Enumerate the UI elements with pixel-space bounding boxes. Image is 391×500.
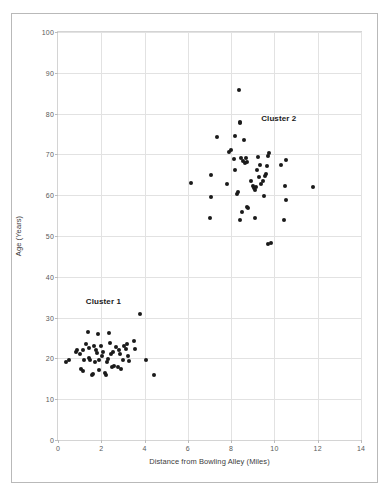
y-tick-mark <box>55 195 58 196</box>
x-tick-mark <box>231 440 232 443</box>
cluster-annotation: Cluster 1 <box>86 297 121 306</box>
x-tick-mark <box>274 440 275 443</box>
data-point <box>133 347 137 351</box>
gridline-vertical <box>274 32 275 440</box>
data-point <box>238 218 242 222</box>
data-point <box>144 358 148 362</box>
gridline-horizontal <box>58 114 361 115</box>
y-tick-mark <box>55 114 58 115</box>
data-point <box>91 372 95 376</box>
scatter-chart: 010203040506070809010002468101214Cluster… <box>12 14 377 482</box>
data-point <box>283 184 287 188</box>
gridline-horizontal <box>58 318 361 319</box>
x-tick-label: 0 <box>56 445 60 452</box>
data-point <box>208 216 212 220</box>
x-tick-mark <box>318 440 319 443</box>
y-tick-label: 0 <box>50 437 54 444</box>
data-point <box>209 173 213 177</box>
x-tick-mark <box>188 440 189 443</box>
gridline-horizontal <box>58 236 361 237</box>
data-point <box>258 163 262 167</box>
y-tick-mark <box>55 154 58 155</box>
data-point <box>81 369 85 373</box>
y-tick-label: 70 <box>46 151 54 158</box>
y-tick-mark <box>55 32 58 33</box>
data-point <box>284 158 288 162</box>
data-point <box>97 368 101 372</box>
data-point <box>138 312 142 316</box>
x-axis-title: Distance from Bowling Alley (Miles) <box>57 457 362 466</box>
y-tick-mark <box>55 73 58 74</box>
x-tick-label: 8 <box>229 445 233 452</box>
gridline-vertical <box>145 32 146 440</box>
data-point <box>95 351 99 355</box>
data-point <box>104 373 108 377</box>
data-point <box>121 358 125 362</box>
y-tick-label: 100 <box>42 29 54 36</box>
data-point <box>67 358 71 362</box>
data-point <box>257 175 261 179</box>
data-point <box>256 155 260 159</box>
gridline-horizontal <box>58 277 361 278</box>
data-point <box>229 148 233 152</box>
gridline-horizontal <box>58 154 361 155</box>
data-point <box>96 332 100 336</box>
data-point <box>233 134 237 138</box>
data-point <box>132 339 136 343</box>
data-point <box>209 195 213 199</box>
data-point <box>225 182 229 186</box>
data-point <box>233 168 237 172</box>
data-point <box>261 179 265 183</box>
data-point <box>125 342 129 346</box>
data-point <box>118 352 122 356</box>
data-point <box>282 218 286 222</box>
data-point <box>237 88 241 92</box>
data-point <box>88 358 92 362</box>
x-tick-label: 10 <box>270 445 278 452</box>
data-point <box>81 348 85 352</box>
data-point <box>242 138 246 142</box>
y-tick-mark <box>55 277 58 278</box>
data-point <box>86 330 90 334</box>
data-point <box>87 346 91 350</box>
data-point <box>240 210 244 214</box>
data-point <box>107 331 111 335</box>
data-point <box>262 194 266 198</box>
data-point <box>99 344 103 348</box>
y-tick-label: 40 <box>46 273 54 280</box>
data-point <box>236 190 240 194</box>
y-tick-mark <box>55 358 58 359</box>
data-point <box>106 357 110 361</box>
data-point <box>245 160 249 164</box>
gridline-vertical <box>188 32 189 440</box>
y-tick-mark <box>55 318 58 319</box>
data-point <box>93 360 97 364</box>
x-tick-label: 12 <box>314 445 322 452</box>
x-tick-label: 4 <box>143 445 147 452</box>
x-tick-mark <box>58 440 59 443</box>
data-point <box>232 157 236 161</box>
data-point <box>105 360 109 364</box>
data-point <box>108 341 112 345</box>
gridline-horizontal <box>58 32 361 33</box>
gridline-horizontal <box>58 399 361 400</box>
cluster-annotation: Cluster 2 <box>261 113 296 122</box>
y-tick-label: 80 <box>46 110 54 117</box>
data-point <box>255 168 259 172</box>
x-tick-label: 14 <box>357 445 365 452</box>
gridline-horizontal <box>58 358 361 359</box>
gridline-vertical <box>101 32 102 440</box>
data-point <box>269 241 273 245</box>
x-tick-label: 2 <box>99 445 103 452</box>
data-point <box>311 185 315 189</box>
data-point <box>279 163 283 167</box>
y-tick-label: 30 <box>46 314 54 321</box>
figure-frame: 010203040506070809010002468101214Cluster… <box>11 13 378 483</box>
x-tick-mark <box>145 440 146 443</box>
data-point <box>78 352 82 356</box>
data-point <box>127 359 131 363</box>
gridline-horizontal <box>58 73 361 74</box>
data-point <box>254 185 258 189</box>
data-point <box>249 179 253 183</box>
y-tick-label: 90 <box>46 69 54 76</box>
